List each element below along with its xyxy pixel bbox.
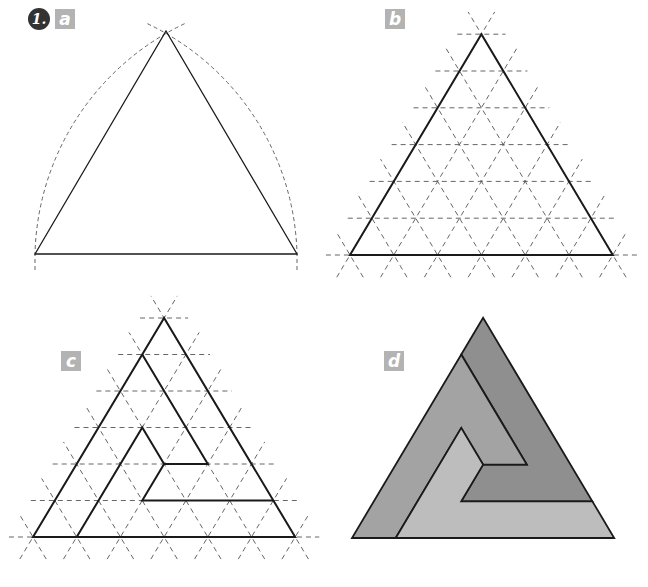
- compass-arc-left: [35, 23, 186, 270]
- spiral-inner: [77, 428, 274, 538]
- panel-b: [326, 12, 637, 277]
- spiral-middle: [142, 355, 208, 465]
- compass-arc-right: [146, 23, 297, 270]
- triangle-outline: [35, 31, 297, 254]
- triangle-outline: [350, 34, 613, 255]
- panel-c: [9, 296, 319, 559]
- spiral-outer: [33, 318, 295, 537]
- panel-d: [352, 318, 614, 538]
- panel-a: [35, 23, 297, 270]
- diagram-canvas: [0, 0, 648, 587]
